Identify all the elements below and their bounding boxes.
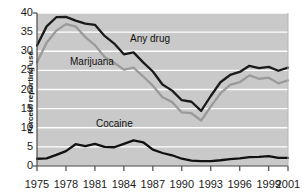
x-tick-label: 1984 — [108, 178, 140, 190]
x-tick-label: 1975 — [21, 178, 53, 190]
y-tick-label: 35 — [7, 26, 33, 37]
chart-figure: Percent reporting use 0510152025303540 A… — [0, 0, 302, 193]
y-tick-label: 30 — [7, 45, 33, 56]
y-tick-label: 10 — [7, 122, 33, 133]
y-tick-label: 25 — [7, 64, 33, 75]
plot-area — [0, 0, 302, 193]
y-tick-label: 40 — [7, 7, 33, 18]
y-tick-label: 0 — [7, 160, 33, 171]
x-tick-label: 2001 — [272, 178, 302, 190]
y-tick-label: 5 — [7, 141, 33, 152]
x-tick-label: 1978 — [50, 178, 82, 190]
y-tick-label: 15 — [7, 103, 33, 114]
series-annotation-any-drug: Any drug — [130, 33, 170, 44]
x-tick-label: 1990 — [166, 178, 198, 190]
y-axis-tick-labels: 0510152025303540 — [5, 0, 33, 193]
x-tick-label: 1996 — [224, 178, 256, 190]
y-tick-label: 20 — [7, 84, 33, 95]
series-annotation-cocaine: Cocaine — [96, 118, 133, 129]
x-tick-label: 1981 — [79, 178, 111, 190]
x-axis-tick-labels: 1975197819811984198719901993199619992001 — [0, 172, 302, 193]
series-annotation-marijuana: Marijuana — [70, 56, 114, 67]
x-tick-label: 1993 — [195, 178, 227, 190]
x-tick-label: 1987 — [137, 178, 169, 190]
